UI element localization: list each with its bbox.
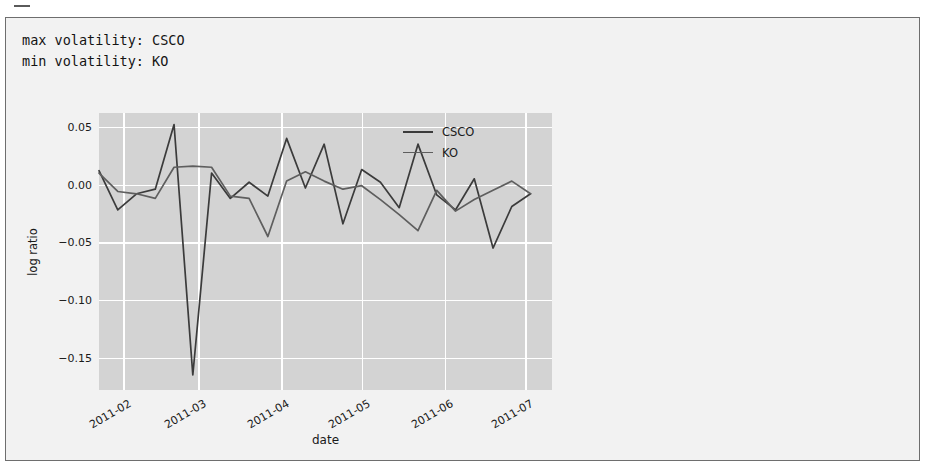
output-frame: max volatility: CSCO min volatility: KO … <box>5 17 920 461</box>
stdout-line-min-volatility: min volatility: KO <box>22 53 168 69</box>
cell-prompt-stub <box>5 0 31 11</box>
x-tick-label: 2011-07 <box>486 397 536 433</box>
matplotlib-figure: 0.050.00−0.05−0.10−0.15 2011-022011-0320… <box>15 78 635 453</box>
x-tick-label: 2011-05 <box>322 397 372 433</box>
y-tick-label: −0.05 <box>58 236 92 249</box>
legend-swatch-line-icon <box>403 152 433 153</box>
chart-legend: CSCOKO <box>403 121 523 163</box>
y-tick-label: −0.10 <box>58 293 92 306</box>
stdout-text: max volatility: CSCO min volatility: KO <box>22 30 185 72</box>
legend-item-ko: KO <box>403 142 523 163</box>
x-tick-label: 2011-06 <box>405 397 455 433</box>
series-line-ko <box>99 166 531 236</box>
legend-item-csco: CSCO <box>403 121 523 142</box>
x-axis-label: date <box>99 433 552 447</box>
legend-label: CSCO <box>442 125 474 139</box>
y-axis-label: log ratio <box>26 228 40 276</box>
notebook-output-cell: max volatility: CSCO min volatility: KO … <box>0 0 929 470</box>
y-tick-label: −0.15 <box>58 351 92 364</box>
stdout-line-max-volatility: max volatility: CSCO <box>22 32 185 48</box>
cell-prompt-bar <box>14 5 30 7</box>
y-tick-label: 0.05 <box>68 120 93 133</box>
legend-swatch-line-icon <box>403 131 433 133</box>
legend-label: KO <box>442 146 458 160</box>
x-tick-label: 2011-03 <box>159 397 209 433</box>
x-tick-label: 2011-04 <box>242 397 292 433</box>
x-tick-label: 2011-02 <box>84 397 134 433</box>
y-tick-label: 0.00 <box>68 178 93 191</box>
